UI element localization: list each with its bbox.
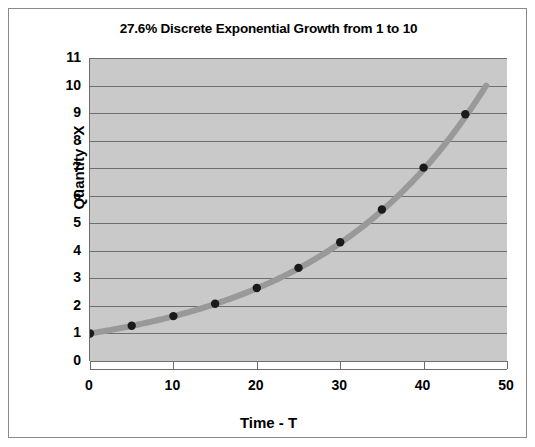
data-point-marker <box>253 284 261 292</box>
data-point-marker <box>128 322 136 330</box>
x-tick-50 <box>507 361 508 369</box>
x-tick-40 <box>424 361 425 369</box>
x-tick-20 <box>257 361 258 369</box>
data-point-marker <box>378 205 386 213</box>
x-axis-title: Time - T <box>9 414 528 431</box>
y-tick-label-4: 4 <box>55 242 81 258</box>
y-tick-label-8: 8 <box>55 132 81 148</box>
y-tick-label-0: 0 <box>55 352 81 368</box>
y-tick-label-1: 1 <box>55 324 81 340</box>
x-tick-label-50: 50 <box>486 377 526 393</box>
data-point-marker <box>294 264 302 272</box>
y-tick-label-6: 6 <box>55 187 81 203</box>
y-tick-label-9: 9 <box>55 104 81 120</box>
data-point-marker <box>419 163 427 171</box>
x-tick-label-30: 30 <box>319 377 359 393</box>
data-point-markers <box>90 110 469 338</box>
y-tick-label-11: 11 <box>55 49 81 65</box>
y-tick-label-2: 2 <box>55 297 81 313</box>
x-tick-label-20: 20 <box>236 377 276 393</box>
y-tick-label-3: 3 <box>55 269 81 285</box>
y-tick-label-10: 10 <box>55 77 81 93</box>
chart-title: 27.6% Discrete Exponential Growth from 1… <box>9 21 528 36</box>
plot-area <box>89 58 507 361</box>
gridline-y-0 <box>90 361 507 362</box>
chart-frame: 27.6% Discrete Exponential Growth from 1… <box>8 8 527 438</box>
x-axis-line <box>90 369 507 370</box>
data-point-marker <box>211 300 219 308</box>
x-tick-label-0: 0 <box>69 377 109 393</box>
data-point-marker <box>336 238 344 246</box>
x-tick-10 <box>173 361 174 369</box>
x-tick-30 <box>340 361 341 369</box>
y-tick-label-7: 7 <box>55 159 81 175</box>
x-tick-0 <box>90 361 91 369</box>
data-point-marker <box>169 312 177 320</box>
series-curve <box>90 58 507 361</box>
y-tick-label-5: 5 <box>55 214 81 230</box>
curve-line <box>90 86 486 334</box>
data-point-marker <box>461 110 469 118</box>
x-tick-label-40: 40 <box>403 377 443 393</box>
x-tick-label-10: 10 <box>152 377 192 393</box>
